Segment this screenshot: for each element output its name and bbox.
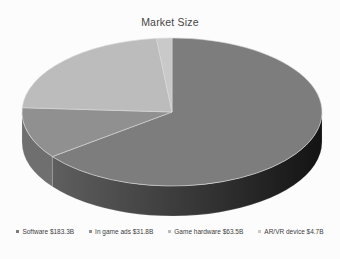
legend-label-arvr-device: AR/VR device $4.7B bbox=[264, 228, 323, 235]
chart-legend: Software $183.3B In game ads $31.8B Game… bbox=[0, 228, 340, 235]
pie-chart-3d bbox=[0, 0, 340, 259]
legend-marker-arvr-device bbox=[258, 230, 261, 233]
legend-marker-game-hardware bbox=[168, 230, 171, 233]
legend-marker-in-game-ads bbox=[89, 230, 92, 233]
legend-label-game-hardware: Game hardware $63.5B bbox=[174, 228, 243, 235]
legend-item-software: Software $183.3B bbox=[16, 228, 74, 235]
legend-item-in-game-ads: In game ads $31.8B bbox=[89, 228, 153, 235]
legend-item-game-hardware: Game hardware $63.5B bbox=[168, 228, 243, 235]
legend-label-software: Software $183.3B bbox=[22, 228, 74, 235]
legend-marker-software bbox=[16, 230, 19, 233]
chart-page: Market Size Software $183.3B In game ads… bbox=[0, 0, 340, 259]
pie-slice-top-game-hardware bbox=[22, 38, 172, 112]
legend-item-arvr-device: AR/VR device $4.7B bbox=[258, 228, 323, 235]
legend-label-in-game-ads: In game ads $31.8B bbox=[95, 228, 153, 235]
